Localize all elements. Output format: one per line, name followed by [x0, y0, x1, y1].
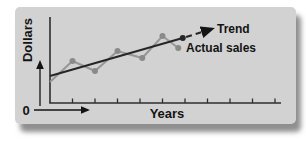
actual-sales-data-point: [115, 48, 121, 54]
actual-sales-label: Actual sales: [186, 41, 256, 55]
chart-canvas: Dollars Years 0 Trend Actual sales: [0, 0, 306, 141]
y-axis-label: Dollars: [20, 18, 35, 62]
figure: Dollars Years 0 Trend Actual sales: [0, 0, 306, 141]
origin-label: 0: [22, 103, 29, 118]
trend-projection-line: [186, 29, 212, 37]
trend-end-dot: [180, 35, 186, 41]
actual-sales-line: [50, 36, 178, 82]
actual-sales-data-point: [139, 55, 145, 61]
actual-sales-data-point: [175, 45, 181, 51]
trend-line: [50, 38, 183, 76]
trend-label: Trend: [217, 22, 250, 36]
actual-sales-data-point: [92, 68, 98, 74]
actual-sales-data-point: [160, 33, 166, 39]
actual-sales-data-point: [70, 58, 76, 64]
x-axis-label: Years: [150, 106, 185, 121]
